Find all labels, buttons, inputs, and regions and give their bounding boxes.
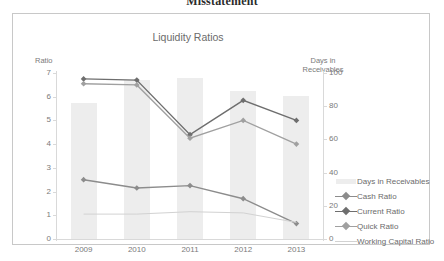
left-tick-7: 7 bbox=[29, 69, 51, 77]
left-tick-mark bbox=[53, 192, 56, 193]
left-axis-title: Ratio bbox=[35, 56, 53, 65]
legend-item-current-ratio[interactable]: Current Ratio bbox=[335, 204, 444, 219]
left-tick-mark bbox=[53, 97, 56, 98]
series-working-capital-ratio bbox=[84, 212, 297, 223]
right-axis-line bbox=[323, 71, 324, 241]
data-point-2011 bbox=[187, 183, 193, 189]
right-tick-80: 80 bbox=[329, 102, 355, 110]
left-tick-4: 4 bbox=[29, 140, 51, 148]
data-point-2009 bbox=[81, 81, 87, 87]
right-tick-100: 100 bbox=[329, 69, 355, 77]
right-tick-mark bbox=[324, 106, 327, 107]
legend-item-working-capital-ratio[interactable]: Working Capital Ratio bbox=[335, 234, 444, 249]
chart-screenshot: Misstatement Liquidity Ratios Ratio Days… bbox=[0, 0, 444, 261]
legend-marker bbox=[342, 222, 350, 230]
data-point-2013 bbox=[294, 118, 300, 124]
line-series-group bbox=[57, 73, 323, 239]
category-label-2012: 2012 bbox=[221, 245, 265, 254]
legend-marker bbox=[342, 207, 350, 215]
document-heading: Misstatement bbox=[0, 0, 444, 7]
left-tick-1: 1 bbox=[29, 211, 51, 219]
series-current-ratio bbox=[81, 76, 299, 137]
category-label-2013: 2013 bbox=[274, 245, 318, 254]
data-point-2013 bbox=[294, 141, 300, 147]
legend-label: Working Capital Ratio bbox=[357, 237, 434, 246]
legend-label: Current Ratio bbox=[357, 207, 405, 216]
right-tick-60: 60 bbox=[329, 135, 355, 143]
right-tick-mark bbox=[324, 206, 327, 207]
legend-key-icon bbox=[335, 191, 357, 202]
legend-key-icon bbox=[335, 206, 357, 217]
right-tick-mark bbox=[324, 173, 327, 174]
legend-label: Days in Receivables bbox=[357, 177, 429, 186]
chart-frame: Liquidity Ratios Ratio Days in Receivabl… bbox=[12, 13, 430, 245]
right-axis-title-line1: Days in bbox=[310, 56, 335, 65]
chart-title: Liquidity Ratios bbox=[73, 31, 303, 43]
category-label-2010: 2010 bbox=[115, 245, 159, 254]
right-tick-mark bbox=[324, 73, 327, 74]
left-tick-3: 3 bbox=[29, 164, 51, 172]
series-cash-ratio bbox=[81, 177, 299, 227]
category-label-2009: 2009 bbox=[62, 245, 106, 254]
data-point-2012 bbox=[240, 118, 246, 124]
category-label-2011: 2011 bbox=[168, 245, 212, 254]
legend-label: Cash Ratio bbox=[357, 192, 397, 201]
left-tick-0: 0 bbox=[29, 235, 51, 243]
data-point-2010 bbox=[134, 185, 140, 191]
left-tick-mark bbox=[53, 215, 56, 216]
series-quick-ratio bbox=[81, 81, 299, 147]
plot-area bbox=[57, 73, 323, 239]
right-tick-mark bbox=[324, 139, 327, 140]
data-point-2009 bbox=[81, 177, 87, 183]
legend-item-quick-ratio[interactable]: Quick Ratio bbox=[335, 219, 444, 234]
left-tick-2: 2 bbox=[29, 188, 51, 196]
legend-key-icon bbox=[335, 236, 357, 247]
legend-key-icon bbox=[335, 221, 357, 232]
left-tick-6: 6 bbox=[29, 93, 51, 101]
left-tick-5: 5 bbox=[29, 116, 51, 124]
legend-key-icon bbox=[335, 176, 357, 187]
legend-marker bbox=[342, 192, 350, 200]
left-tick-mark bbox=[53, 168, 56, 169]
chart-legend: Days in ReceivablesCash RatioCurrent Rat… bbox=[335, 174, 444, 249]
legend-label: Quick Ratio bbox=[357, 222, 398, 231]
legend-item-days-in-receivables[interactable]: Days in Receivables bbox=[335, 174, 444, 189]
left-tick-mark bbox=[53, 73, 56, 74]
right-tick-mark bbox=[324, 239, 327, 240]
legend-item-cash-ratio[interactable]: Cash Ratio bbox=[335, 189, 444, 204]
legend-swatch bbox=[336, 179, 356, 184]
left-tick-mark bbox=[53, 120, 56, 121]
left-tick-mark bbox=[53, 144, 56, 145]
data-point-2012 bbox=[240, 196, 246, 202]
category-axis-line bbox=[56, 239, 324, 240]
left-tick-mark bbox=[53, 239, 56, 240]
legend-line bbox=[335, 241, 357, 242]
